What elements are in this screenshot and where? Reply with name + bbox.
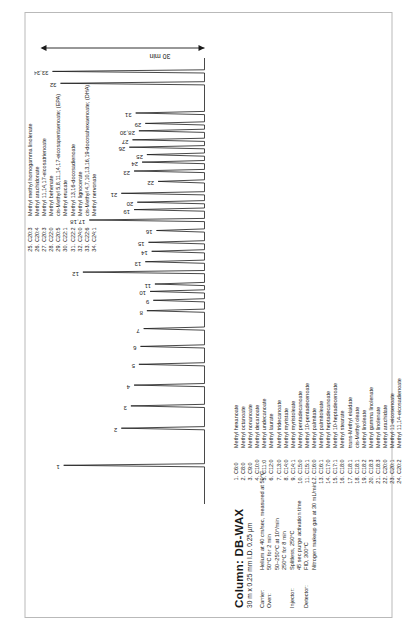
method-value: 50°C for 2 min	[265, 518, 272, 570]
compound-list-item: 25.C20:3Methyl methyl homogamma linolena…	[26, 85, 33, 256]
compound-number: 14.	[324, 474, 331, 488]
peak-label: 24	[130, 161, 137, 167]
compound-number: 8.	[282, 474, 289, 488]
compound-list-primary: 1.C6:0Methyl hexanoate2.C8:0Methyl octan…	[232, 378, 402, 488]
compound-number: 29.	[54, 242, 61, 256]
method-row-label: Injector:	[288, 570, 303, 608]
peak-label: 3	[122, 405, 126, 411]
compound-name: Methyl nonanoate	[246, 404, 253, 448]
compound-number: 34.	[90, 242, 97, 256]
axis-arrow-bottom	[198, 45, 204, 51]
compound-list-item: 1.C6:0Methyl hexanoate	[232, 378, 239, 488]
compound-number: 31.	[69, 242, 76, 256]
compound-name: Methyl 11,14,17-eicosatrienoate	[40, 138, 47, 216]
compound-code: C18:3	[367, 448, 374, 474]
compound-name: cis-Methyl oleate	[353, 407, 360, 448]
compound-name: Methyl arachidate	[381, 405, 388, 448]
compound-number: 33.	[83, 242, 90, 256]
compound-name: Methyl linoleate	[360, 410, 367, 448]
compound-code: C16:1	[317, 448, 324, 474]
compound-list-item: 15.C17:1Methyl 10-heptadecenoate	[331, 378, 338, 488]
compound-list-item: 17.C18:1trans-Methyl elaidate	[346, 378, 353, 488]
method-value: Nitrogen makeup gas at 30 mL/min	[310, 483, 317, 570]
compound-number: 5.	[260, 474, 267, 488]
compound-name: Methyl undecanoate	[260, 398, 267, 448]
compound-number: 20.	[367, 474, 374, 488]
compound-list-item: 9.C14:1Methyl myristoleate	[289, 378, 296, 488]
compound-name: Methyl nervonate	[90, 174, 97, 216]
compound-code: C13:0	[275, 448, 282, 474]
compound-list-item: 6.C12:0Methyl laurate	[267, 378, 274, 488]
compound-code: C6:0	[232, 448, 239, 474]
compound-name: Methyl stearate	[338, 410, 345, 448]
peak-label: 12	[71, 271, 78, 277]
peak-label: 8	[138, 310, 142, 316]
figure-page: 1234567891011121314151617,18192021222324…	[0, 0, 413, 632]
compound-name: Methyl methyl homogamma linolenate	[26, 123, 33, 216]
compound-number: 25.	[26, 242, 33, 256]
compound-code: C20:3	[40, 216, 47, 242]
method-row-values: 50°C for 2 min50–250°C at 10°/min250°C f…	[265, 518, 287, 570]
compound-number: 3.	[246, 474, 253, 488]
compound-list-item: 2.C8:0Methyl octanoate	[239, 378, 246, 488]
peak-label: 16	[145, 229, 152, 235]
compound-code: C20:0	[381, 448, 388, 474]
compound-code: C18:0	[338, 448, 345, 474]
compound-name: trans-Methyl elaidate	[346, 397, 353, 448]
compound-number: 27.	[40, 242, 47, 256]
compound-code: C15:0	[296, 448, 303, 474]
peak-label: 25	[135, 154, 142, 160]
peak-label: 10	[138, 290, 145, 296]
compound-code: C22:0	[47, 216, 54, 242]
method-value: 50–250°C at 10°/min	[273, 518, 280, 570]
compound-name: Methyl arachidonate	[33, 166, 40, 216]
compound-name: Methyl decanoate	[253, 405, 260, 448]
peak-label: 28,30	[119, 130, 135, 136]
peak-label: 29	[133, 122, 140, 128]
peak-label: 1	[55, 464, 59, 470]
compound-code: C8:0	[239, 448, 246, 474]
compound-number: 16.	[338, 474, 345, 488]
peak-label: 31	[124, 112, 131, 118]
compound-code: C16:0	[310, 448, 317, 474]
compound-list-item: 31.C22:2Methyl 13,16-docosadienoate	[69, 85, 76, 256]
compound-list-item: 23.C20:1Methyl 11-eicosenoate	[388, 378, 395, 488]
compound-code: C15:1	[303, 448, 310, 474]
method-row-values: Splitless, 250°C45 sec purge activation …	[288, 500, 303, 570]
compound-list-item: 26.C20:4Methyl arachidonate	[33, 85, 40, 256]
compound-number: 19.	[360, 474, 367, 488]
compound-code: C18:1	[353, 448, 360, 474]
peak-label: 2	[113, 427, 117, 433]
compound-code: C24:0	[76, 216, 83, 242]
compound-code: C20:5	[54, 216, 61, 242]
compound-list-item: 22.C20:0Methyl arachidate	[381, 378, 388, 488]
compound-list-secondary: 25.C20:3Methyl methyl homogamma linolena…	[26, 85, 97, 256]
compound-list-item: 29.C20:5cis-Methyl 5,8,11,14,17-eicosape…	[54, 85, 61, 256]
compound-name: cis-Methyl 5,8,11,14,17-eicosapentaenoat…	[54, 94, 61, 216]
compound-number: 10.	[296, 474, 303, 488]
compound-list-item: 14.C17:0Methyl heptadecanoate	[324, 378, 331, 488]
compound-list-column-left: 1.C6:0Methyl hexanoate2.C8:0Methyl octan…	[232, 378, 402, 488]
compound-name: Methyl lignocerate	[76, 171, 83, 216]
method-value: Splitless, 250°C	[288, 500, 295, 570]
compound-list-item: 11.C15:1Methyl 10-pentadecenoate	[303, 378, 310, 488]
compound-number: 24.	[395, 474, 402, 488]
compound-list-item: 3.C9:0Methyl nonanoate	[246, 378, 253, 488]
compound-name: Methyl heptadecanoate	[324, 391, 331, 448]
method-row: Injector:Splitless, 250°C45 sec purge ac…	[288, 22, 303, 608]
peak-label: 6	[132, 345, 136, 351]
compound-number: 7.	[275, 474, 282, 488]
method-row-label: Carrier:	[258, 570, 265, 608]
compound-code: C9:0	[246, 448, 253, 474]
compound-code: C18:3	[374, 448, 381, 474]
compound-number: 18.	[353, 474, 360, 488]
method-and-compound-block: Column: DB-WAX 30 m x 0.25 mm I.D. 0.25 …	[232, 22, 317, 608]
method-value: FID, 300°C	[302, 483, 309, 570]
compound-list-item: 20.C18:3Methyl gamma linolenate	[367, 378, 374, 488]
compound-list-item: 16.C18:0Methyl stearate	[338, 378, 345, 488]
compound-number: 23.	[388, 474, 395, 488]
compound-code: C24:1	[90, 216, 97, 242]
compound-name: Methyl octanoate	[239, 406, 246, 448]
compound-name: Methyl tridecanoate	[275, 400, 282, 448]
peak-label: 20	[125, 201, 132, 207]
